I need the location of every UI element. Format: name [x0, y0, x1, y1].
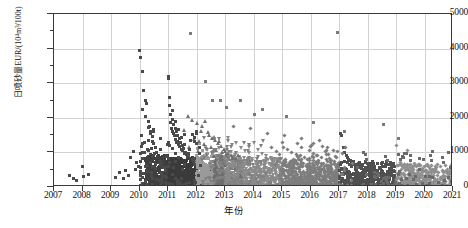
data-point	[180, 177, 183, 180]
data-point	[343, 130, 346, 133]
data-point	[394, 143, 398, 147]
data-point	[144, 165, 147, 168]
y-axis-tick-label: 2000	[424, 112, 468, 122]
data-point	[204, 177, 208, 181]
y-axis-tick	[47, 13, 53, 14]
x-axis-title: 年份	[0, 206, 468, 216]
data-point	[197, 174, 200, 177]
y-axis-minor-tick	[50, 30, 54, 31]
data-point	[206, 183, 210, 186]
data-point	[202, 142, 206, 146]
data-point	[258, 185, 262, 186]
data-point	[237, 185, 241, 186]
data-point	[189, 139, 192, 142]
plot-area	[53, 13, 452, 186]
data-point	[168, 161, 171, 164]
data-point	[169, 121, 172, 124]
data-point	[199, 129, 203, 133]
gridline-horizontal	[54, 118, 451, 119]
data-point	[365, 173, 368, 176]
y-axis-minor-tick	[50, 100, 54, 101]
data-point	[81, 165, 84, 168]
x-axis-tick-label: 2021	[432, 190, 468, 200]
data-point	[386, 159, 389, 162]
data-point	[139, 178, 142, 181]
y-axis-minor-tick	[50, 65, 54, 66]
data-point	[317, 138, 321, 142]
data-point	[185, 166, 188, 169]
data-point	[397, 153, 400, 156]
data-point	[159, 148, 162, 151]
data-point	[264, 172, 268, 176]
data-point	[169, 113, 172, 116]
data-point	[211, 99, 214, 102]
data-point	[144, 157, 147, 160]
data-point	[231, 124, 235, 128]
data-point	[181, 168, 184, 171]
data-point	[68, 174, 71, 177]
data-point	[140, 134, 143, 137]
data-point	[340, 134, 343, 137]
data-point	[159, 137, 162, 140]
data-point	[387, 184, 390, 186]
data-point	[170, 127, 173, 130]
data-point	[212, 183, 216, 186]
data-point	[380, 180, 383, 183]
data-point	[431, 176, 434, 179]
data-point	[418, 157, 421, 160]
data-point	[183, 163, 186, 166]
data-point	[356, 166, 359, 169]
data-point	[127, 174, 130, 177]
data-point	[167, 75, 170, 78]
data-point	[174, 160, 177, 163]
data-point	[139, 152, 142, 155]
data-point	[226, 155, 230, 159]
data-point	[168, 104, 171, 107]
data-point	[255, 185, 259, 186]
data-point	[246, 163, 250, 167]
data-point	[299, 146, 303, 150]
data-point	[379, 167, 382, 170]
data-point	[274, 185, 278, 186]
data-point	[139, 166, 142, 169]
data-point	[217, 137, 221, 141]
data-point	[201, 183, 205, 186]
data-point	[268, 183, 272, 186]
data-point	[200, 124, 204, 128]
data-point	[392, 169, 395, 172]
data-point	[384, 155, 387, 158]
data-point	[377, 174, 380, 177]
data-point	[240, 185, 244, 186]
data-point	[405, 177, 408, 180]
data-point	[171, 130, 174, 133]
data-point	[268, 169, 272, 173]
data-point	[364, 161, 367, 164]
data-point	[142, 89, 145, 92]
data-point	[447, 176, 450, 179]
data-point	[147, 149, 150, 152]
data-point	[204, 147, 208, 151]
data-point	[219, 185, 223, 186]
data-point	[230, 184, 234, 186]
data-point	[148, 155, 151, 158]
data-point	[186, 155, 189, 158]
data-point	[140, 145, 143, 148]
data-point	[229, 185, 233, 186]
data-point	[259, 160, 263, 164]
data-point	[370, 183, 373, 186]
data-point	[118, 171, 121, 174]
data-point	[151, 140, 154, 143]
data-point	[273, 185, 277, 186]
data-point	[283, 134, 287, 138]
data-point	[196, 184, 199, 186]
data-point	[171, 109, 174, 112]
data-point	[177, 128, 180, 131]
data-point	[139, 172, 142, 175]
data-point	[365, 158, 368, 161]
data-point	[230, 185, 234, 186]
data-point	[270, 146, 274, 150]
data-point	[189, 32, 192, 35]
gridline-horizontal	[54, 152, 451, 153]
data-point	[409, 154, 412, 157]
data-point	[221, 176, 225, 180]
